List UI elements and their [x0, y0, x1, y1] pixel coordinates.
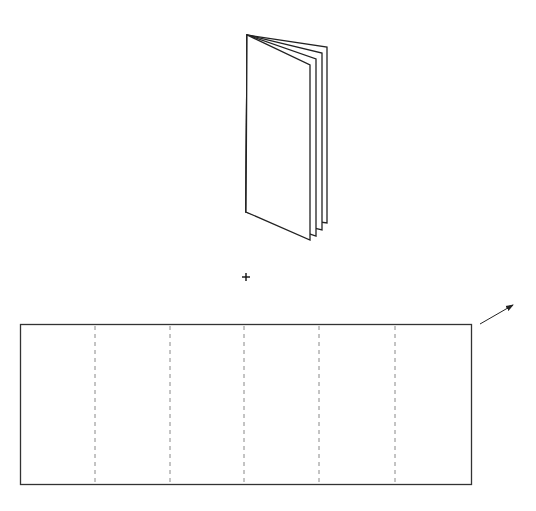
unfolded-sheet	[21, 325, 472, 485]
plus-icon	[242, 273, 250, 281]
booklet-front-panel	[246, 35, 310, 240]
folded-booklet	[246, 35, 327, 240]
sheet-outline	[21, 325, 472, 485]
diagram-canvas	[0, 0, 536, 511]
arrow-icon	[480, 305, 513, 324]
